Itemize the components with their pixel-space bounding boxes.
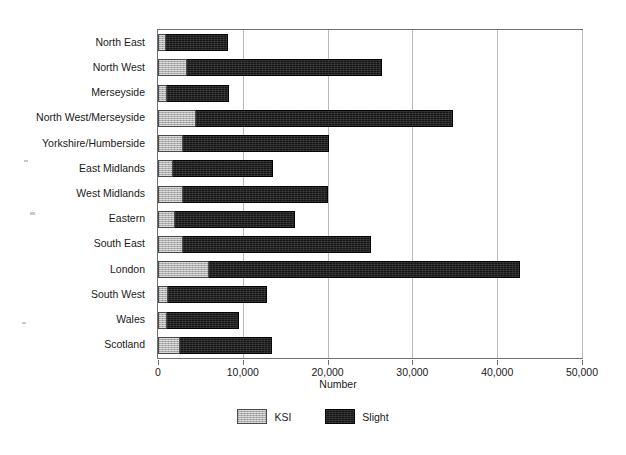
bar-segment-ksi (158, 59, 187, 76)
ksi-swatch-icon (237, 409, 267, 424)
y-axis-label: Yorkshire/Humberside (42, 137, 145, 149)
x-tick-mark (243, 360, 244, 365)
bar-segment-slight (168, 286, 267, 303)
bar-row (158, 59, 582, 76)
legend-label-slight: Slight (362, 411, 388, 423)
x-tick-label: 30,000 (396, 366, 428, 378)
x-axis-title-label: Number (319, 378, 356, 390)
legend-item-slight: Slight (325, 409, 388, 424)
bar-segment-slight (183, 135, 329, 152)
bar-segment-ksi (158, 160, 173, 177)
x-tick-label: 50,000 (566, 366, 598, 378)
bar-row (158, 110, 582, 127)
bar-row (158, 337, 582, 354)
plot-area (157, 29, 583, 359)
bar-segment-slight (183, 186, 328, 203)
y-axis-label: North West/Merseyside (36, 111, 145, 123)
bar-segment-ksi (158, 110, 196, 127)
bar-rows (158, 30, 582, 358)
x-tick-label: 20,000 (312, 366, 344, 378)
bar-segment-slight (183, 236, 370, 253)
bar-row (158, 211, 582, 228)
y-axis-label: North East (95, 36, 145, 48)
y-axis-label: Scotland (104, 338, 145, 350)
y-axis-label: West Midlands (76, 187, 145, 199)
x-tick-mark (328, 360, 329, 365)
bar-segment-slight (175, 211, 295, 228)
bar-segment-slight (167, 312, 239, 329)
bar-segment-ksi (158, 236, 183, 253)
legend-item-ksi: KSI (237, 409, 291, 424)
bar-row (158, 286, 582, 303)
y-axis-label: Merseyside (91, 86, 145, 98)
bar-segment-slight (173, 160, 273, 177)
y-axis-labels: North EastNorth WestMerseysideNorth West… (0, 29, 152, 359)
bar-segment-ksi (158, 261, 209, 278)
bar-segment-slight (167, 85, 229, 102)
bar-row (158, 312, 582, 329)
chart-legend: KSI Slight (0, 409, 626, 424)
bar-segment-ksi (158, 337, 180, 354)
x-axis-title: Number (0, 378, 626, 390)
y-axis-label: Eastern (109, 212, 145, 224)
bar-segment-ksi (158, 135, 183, 152)
y-axis-label: South West (91, 288, 145, 300)
bar-segment-slight (166, 34, 229, 51)
bar-segment-ksi (158, 211, 175, 228)
bar-row (158, 186, 582, 203)
bar-chart: North EastNorth WestMerseysideNorth West… (0, 0, 626, 455)
bar-row (158, 34, 582, 51)
y-axis-label: Wales (116, 313, 145, 325)
x-tick-mark (412, 360, 413, 365)
bar-segment-slight (196, 110, 453, 127)
bar-row (158, 160, 582, 177)
x-tick-mark (582, 360, 583, 365)
bar-segment-slight (180, 337, 272, 354)
legend-label-ksi: KSI (274, 411, 291, 423)
x-axis-ticks: 010,00020,00030,00040,00050,000 (0, 360, 626, 378)
bar-row (158, 85, 582, 102)
y-axis-label: South East (94, 237, 145, 249)
bar-segment-ksi (158, 85, 167, 102)
bar-segment-slight (209, 261, 520, 278)
bar-segment-ksi (158, 312, 167, 329)
bar-segment-ksi (158, 34, 166, 51)
bar-row (158, 261, 582, 278)
x-tick-label: 0 (155, 366, 161, 378)
slight-swatch-icon (325, 409, 355, 424)
bar-segment-ksi (158, 286, 168, 303)
bar-row (158, 236, 582, 253)
bar-segment-slight (187, 59, 382, 76)
bar-segment-ksi (158, 186, 183, 203)
gridline (582, 30, 583, 358)
x-tick-label: 40,000 (481, 366, 513, 378)
y-axis-label: North West (93, 61, 145, 73)
x-tick-mark (497, 360, 498, 365)
y-axis-label: East Midlands (79, 162, 145, 174)
y-axis-label: London (110, 263, 145, 275)
bar-row (158, 135, 582, 152)
x-tick-label: 10,000 (227, 366, 259, 378)
x-tick-mark (158, 360, 159, 365)
